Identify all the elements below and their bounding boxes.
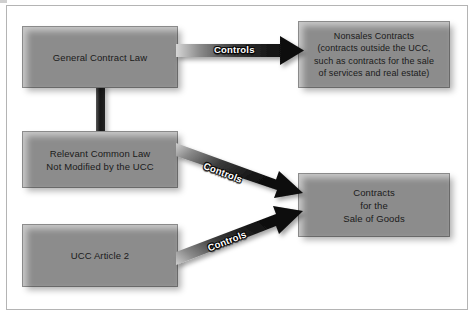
node-ucc-article-2: UCC Article 2 — [22, 224, 178, 287]
node-contracts-sale-goods: Contractsfor theSale of Goods — [298, 173, 450, 237]
node-relevant-common-law: Relevant Common LawNot Modified by the U… — [22, 131, 178, 188]
node-general-contract-law-label: General Contract Law — [47, 51, 153, 64]
diagram-canvas: Controls Controls — [0, 0, 475, 317]
connector-general-to-common-law — [96, 84, 105, 135]
corner-mark — [0, 0, 7, 3]
node-general-contract-law: General Contract Law — [22, 26, 178, 88]
arrow-controls-nonsales — [176, 36, 304, 66]
arrow-controls-ucc-to-goods — [176, 196, 304, 268]
node-contracts-sale-goods-label: Contractsfor theSale of Goods — [337, 186, 411, 225]
node-ucc-article-2-label: UCC Article 2 — [65, 249, 135, 262]
node-nonsales-contracts-label: Nonsales Contracts(contracts outside the… — [308, 30, 440, 80]
node-relevant-common-law-label: Relevant Common LawNot Modified by the U… — [40, 147, 159, 173]
node-nonsales-contracts: Nonsales Contracts(contracts outside the… — [298, 21, 450, 88]
